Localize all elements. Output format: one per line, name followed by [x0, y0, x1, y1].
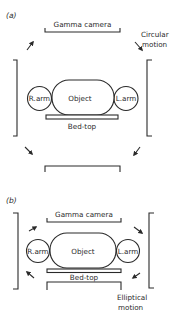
- gamma-camera-label: Gamma camera: [54, 20, 112, 29]
- bed-top-label: Bed-top: [70, 273, 99, 282]
- rotation-arrow-icon: [133, 273, 140, 278]
- rotation-arrow-icon: [25, 147, 32, 154]
- bed-top-label: Bed-top: [68, 122, 97, 131]
- bed-top: [46, 115, 118, 119]
- gamma-camera-top: Gamma camera: [47, 210, 121, 222]
- gamma-camera-orbit-diagram: (a) Gamma camera Circular motion R.arm L…: [0, 0, 175, 317]
- gamma-camera-right: [147, 60, 152, 136]
- gamma-camera-bottom: [45, 166, 120, 172]
- gamma-camera-left: [13, 213, 18, 289]
- gamma-camera-left: [13, 60, 17, 136]
- object-label: Object: [68, 94, 92, 103]
- panel-b-label: (b): [6, 196, 17, 205]
- bed-top: [47, 269, 121, 273]
- rotation-arrow-icon: [134, 227, 142, 233]
- rotation-arrow-icon: [135, 42, 142, 50]
- object-label: Object: [71, 247, 95, 256]
- right-arm-label: R.arm: [27, 247, 48, 256]
- rotation-arrow-icon: [27, 42, 33, 50]
- right-arm-label: R.arm: [29, 94, 50, 103]
- panel-a-label: (a): [6, 11, 17, 20]
- rotation-arrow-icon: [29, 227, 36, 231]
- panel-a: (a) Gamma camera Circular motion R.arm L…: [6, 11, 169, 172]
- gamma-camera-bottom: [47, 282, 121, 290]
- panel-b: (b) Gamma camera R.arm L.arm Object Bed-…: [6, 196, 154, 312]
- motion-label-line1: Circular: [141, 30, 169, 39]
- rotation-arrow-icon: [134, 147, 140, 155]
- gamma-camera-top: Gamma camera: [45, 20, 120, 32]
- motion-label-line2: motion: [118, 303, 143, 312]
- rotation-arrow-icon: [27, 272, 34, 278]
- motion-label-line1: Elliptical: [117, 293, 147, 302]
- gamma-camera-right: [149, 213, 154, 288]
- motion-label-line2: motion: [142, 40, 167, 49]
- left-arm-label: L.arm: [116, 94, 137, 103]
- gamma-camera-label: Gamma camera: [55, 210, 113, 219]
- left-arm-label: L.arm: [118, 247, 139, 256]
